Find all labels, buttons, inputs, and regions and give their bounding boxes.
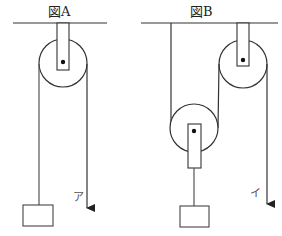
fixed-axle-dot-b bbox=[241, 58, 245, 62]
axle-dot-a bbox=[61, 60, 65, 64]
figure-a-title: 図A bbox=[48, 5, 70, 18]
arrow-label-a: ア bbox=[73, 192, 84, 203]
weight-b bbox=[180, 206, 209, 227]
figure-a bbox=[13, 23, 107, 226]
figure-b-title: 図B bbox=[190, 5, 213, 18]
pulley-diagram bbox=[0, 0, 282, 236]
rope-middle-b bbox=[218, 64, 219, 128]
weight-a bbox=[23, 205, 53, 226]
arrow-label-b: イ bbox=[250, 188, 261, 199]
movable-axle-dot-b bbox=[192, 129, 196, 133]
